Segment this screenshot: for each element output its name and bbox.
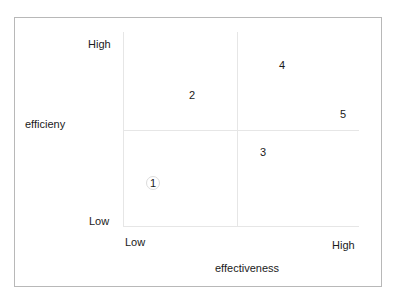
- grid-line-mid-vertical: [237, 32, 238, 226]
- y-tick-low: Low: [89, 215, 109, 227]
- grid-line-bottom: [123, 226, 359, 227]
- y-axis-title: efficieny: [25, 118, 65, 130]
- data-point-4: 4: [279, 59, 285, 71]
- grid-line-left: [123, 32, 124, 226]
- data-point-2: 2: [189, 89, 195, 101]
- x-tick-high: High: [332, 239, 355, 251]
- y-tick-high: High: [88, 38, 111, 50]
- grid-line-mid-horizontal: [123, 130, 359, 131]
- x-tick-low: Low: [125, 236, 145, 248]
- data-point-1: 1: [146, 176, 160, 190]
- data-point-3: 3: [260, 146, 266, 158]
- x-axis-title: effectiveness: [215, 262, 279, 274]
- data-point-5: 5: [340, 108, 346, 120]
- chart-frame: [14, 17, 382, 287]
